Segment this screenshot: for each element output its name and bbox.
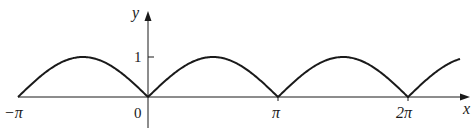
y-axis-arrow-icon	[145, 11, 152, 21]
sine-abs-plot: y 1 0 −π π 2π x	[0, 0, 475, 128]
x-tick-label-neg-pi: −π	[4, 104, 24, 121]
x-tick-label-pi: π	[272, 104, 281, 121]
x-tick-label-zero: 0	[134, 105, 142, 121]
y-axis-label: y	[130, 4, 140, 22]
y-tick-label-1: 1	[134, 49, 142, 65]
x-axis-label: x	[462, 100, 470, 117]
curve-abs-sin	[18, 57, 460, 97]
x-tick-label-2pi: 2π	[396, 104, 413, 121]
